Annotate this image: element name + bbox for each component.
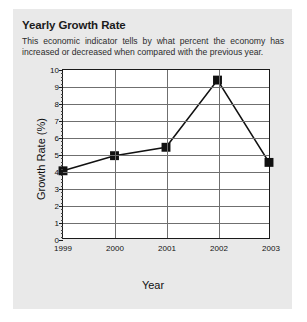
y-tick-mark	[59, 121, 63, 122]
panel-description: This economic indicator tells by what pe…	[22, 36, 284, 57]
y-minor-tick-mark	[61, 145, 64, 146]
plot-area: 01234567891019992000200120022003	[62, 69, 270, 239]
x-tick-label: 2003	[262, 244, 280, 253]
y-tick-mark	[59, 70, 63, 71]
y-tick-mark	[59, 223, 63, 224]
y-minor-tick-mark	[61, 220, 64, 221]
y-tick-mark	[59, 240, 63, 241]
y-tick-mark	[59, 155, 63, 156]
y-minor-tick-mark	[61, 135, 64, 136]
series-path	[63, 70, 269, 238]
y-minor-tick-mark	[61, 90, 64, 91]
x-tick-label: 2001	[158, 244, 176, 253]
y-gridline	[63, 206, 269, 207]
y-minor-tick-mark	[61, 213, 64, 214]
y-gridline	[63, 104, 269, 105]
y-minor-tick-mark	[61, 162, 64, 163]
y-minor-tick-mark	[61, 77, 64, 78]
y-minor-tick-mark	[61, 114, 64, 115]
y-gridline	[63, 138, 269, 139]
y-minor-tick-mark	[61, 226, 64, 227]
y-minor-tick-mark	[61, 169, 64, 170]
y-minor-tick-mark	[61, 94, 64, 95]
y-gridline	[63, 223, 269, 224]
y-tick-mark	[59, 206, 63, 207]
line-chart: Growth Rate (%) Year 0123456789101999200…	[22, 65, 284, 300]
page-title: Yearly Growth Rate	[22, 19, 126, 32]
y-minor-tick-mark	[61, 182, 64, 183]
y-minor-tick-mark	[61, 199, 64, 200]
y-tick-mark	[59, 172, 63, 173]
y-minor-tick-mark	[61, 233, 64, 234]
y-tick-mark	[59, 104, 63, 105]
info-card-panel: Yearly Growth Rate This economic indicat…	[13, 9, 292, 309]
y-minor-tick-mark	[61, 165, 64, 166]
data-point-marker	[213, 76, 222, 85]
y-minor-tick-mark	[61, 209, 64, 210]
y-minor-tick-mark	[61, 107, 64, 108]
y-minor-tick-mark	[61, 186, 64, 187]
y-minor-tick-mark	[61, 80, 64, 81]
y-tick-mark	[59, 138, 63, 139]
y-minor-tick-mark	[61, 196, 64, 197]
series-line	[63, 80, 269, 171]
y-minor-tick-mark	[61, 237, 64, 238]
y-gridline	[63, 172, 269, 173]
y-minor-tick-mark	[61, 141, 64, 142]
x-gridline	[219, 70, 220, 238]
x-gridline	[167, 70, 168, 238]
x-tick-label: 1999	[54, 244, 72, 253]
y-minor-tick-mark	[61, 101, 64, 102]
y-tick-mark	[59, 189, 63, 190]
data-point-marker	[162, 143, 171, 152]
y-minor-tick-mark	[61, 203, 64, 204]
y-minor-tick-mark	[61, 152, 64, 153]
y-minor-tick-mark	[61, 148, 64, 149]
y-axis-title: Growth Rate (%)	[35, 99, 47, 219]
screenshot-root: Yearly Growth Rate This economic indicat…	[0, 0, 307, 322]
y-minor-tick-mark	[61, 158, 64, 159]
y-minor-tick-mark	[61, 175, 64, 176]
y-tick-mark	[59, 87, 63, 88]
x-tick-label: 2000	[106, 244, 124, 253]
x-axis-title: Year	[22, 279, 284, 291]
y-minor-tick-mark	[61, 111, 64, 112]
y-gridline	[63, 189, 269, 190]
y-gridline	[63, 87, 269, 88]
y-minor-tick-mark	[61, 97, 64, 98]
y-minor-tick-mark	[61, 84, 64, 85]
x-gridline	[115, 70, 116, 238]
y-minor-tick-mark	[61, 131, 64, 132]
y-minor-tick-mark	[61, 73, 64, 74]
y-minor-tick-mark	[61, 230, 64, 231]
y-gridline	[63, 121, 269, 122]
y-minor-tick-mark	[61, 192, 64, 193]
y-minor-tick-mark	[61, 179, 64, 180]
y-gridline	[63, 155, 269, 156]
y-minor-tick-mark	[61, 216, 64, 217]
y-minor-tick-mark	[61, 118, 64, 119]
y-tick-label: 10	[50, 66, 59, 75]
y-minor-tick-mark	[61, 124, 64, 125]
data-point-marker	[265, 158, 274, 167]
y-minor-tick-mark	[61, 128, 64, 129]
x-tick-label: 2002	[210, 244, 228, 253]
